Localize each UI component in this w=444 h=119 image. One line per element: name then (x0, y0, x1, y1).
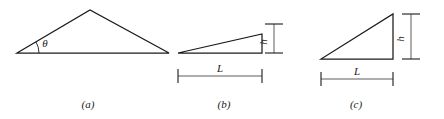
triangle-c-outline (321, 14, 393, 59)
panel-b: h L (b) (178, 24, 283, 111)
figure-svg: θ (a) h L (b) (0, 0, 444, 119)
angle-theta-arc (36, 42, 39, 53)
figure-container: θ (a) h L (b) (0, 0, 444, 119)
dimension-h-b-label: h (257, 39, 269, 45)
dimension-h-c-label: h (394, 36, 406, 42)
triangle-b-outline (178, 34, 262, 53)
angle-theta-label: θ (42, 37, 48, 49)
triangle-a-outline (17, 10, 169, 53)
dimension-h-b: h (257, 24, 283, 53)
panel-c: h L (c) (321, 14, 420, 111)
dimension-l-b-label: L (216, 62, 223, 74)
dimension-l-b: L (178, 62, 262, 83)
dimension-l-c-label: L (353, 65, 360, 77)
panel-a: θ (a) (17, 10, 169, 111)
caption-c: (c) (350, 98, 363, 111)
dimension-h-c: h (394, 14, 420, 59)
caption-a: (a) (82, 98, 95, 111)
caption-b: (b) (218, 98, 231, 111)
dimension-l-c: L (321, 65, 393, 86)
